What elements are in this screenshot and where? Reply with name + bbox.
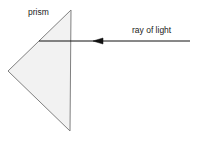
ray-arrowhead-icon [93,38,103,44]
diagram-svg [0,0,199,142]
diagram-canvas: prism ray of light [0,0,199,142]
prism-shape [8,10,71,131]
prism-label: prism [28,8,49,17]
ray-of-light-label: ray of light [132,26,171,35]
